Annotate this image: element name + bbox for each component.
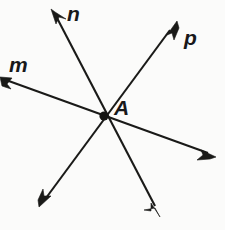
line-label-n: n — [67, 3, 80, 24]
line-n-arrowhead-end — [144, 203, 160, 217]
geometry-diagram: m n p A — [0, 0, 225, 230]
line-p-arrowhead-end — [38, 189, 51, 207]
line-m-arrowhead-start — [0, 77, 12, 89]
line-m — [0, 77, 216, 160]
line-label-p: p — [184, 27, 197, 48]
line-p — [38, 21, 179, 207]
line-label-m: m — [9, 54, 28, 75]
intersection-point-dot — [99, 111, 108, 120]
point-label-a: A — [114, 97, 129, 118]
